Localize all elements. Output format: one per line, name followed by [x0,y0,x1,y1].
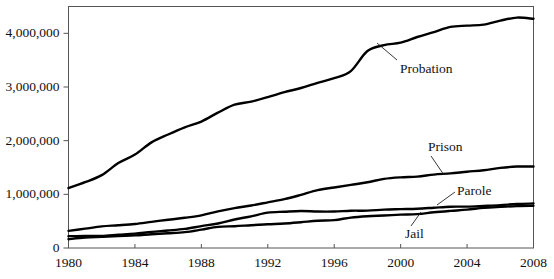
y-axis-tick-label: 0 [53,241,60,255]
x-axis-tick-label: 2000 [371,256,431,270]
y-axis-tick-label: 1,000,000 [6,187,60,201]
chart-container: 4,000,0003,000,0002,000,0001,000,0000 19… [0,0,554,279]
x-axis-tick-label: 1988 [171,256,231,270]
series-label-jail: Jail [405,227,424,241]
series-label-probation: Probation [400,62,453,76]
x-axis-tick-label: 1984 [105,256,165,270]
y-axis-tick-label: 2,000,000 [6,134,60,148]
x-axis-tick-label: 1992 [238,256,298,270]
series-label-parole: Parole [457,184,492,198]
series-label-prison: Prison [428,140,463,154]
y-axis-tick-label: 4,000,000 [6,26,60,40]
x-axis-tick-label: 2008 [504,256,554,270]
x-axis-tick-label: 2004 [437,256,497,270]
y-axis-tick-label: 3,000,000 [6,80,60,94]
x-axis-tick-label: 1996 [304,256,364,270]
chart-plot-svg [0,0,554,279]
x-axis-tick-label: 1980 [39,256,99,270]
y-axis-ticks [64,33,69,248]
